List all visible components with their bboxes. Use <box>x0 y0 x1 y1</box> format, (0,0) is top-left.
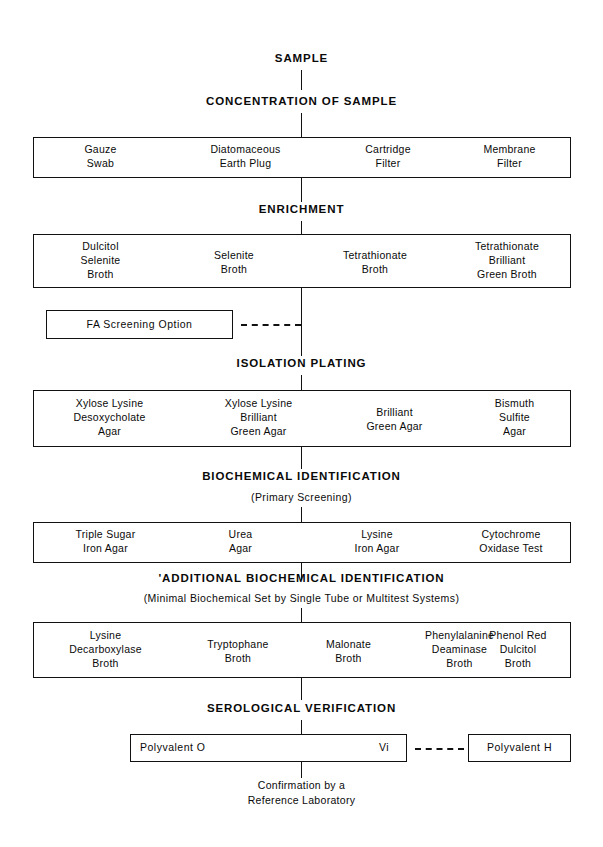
biochemical-cell-2: UreaAgar <box>178 528 303 556</box>
stage-title-concentration: CONCENTRATION OF SAMPLE <box>0 95 603 107</box>
stage-subtitle-biochemical: (Primary Screening) <box>0 491 603 503</box>
footnote-line-2: Reference Laboratory <box>0 793 603 807</box>
stage-title-enrichment: ENRICHMENT <box>0 203 603 215</box>
footnote-line-1: Confirmation by a <box>0 778 603 792</box>
stage-title-additional: 'ADDITIONAL BIOCHEMICAL IDENTIFICATION <box>0 572 603 584</box>
enrichment-cell-1: DulcitolSeleniteBroth <box>33 240 168 282</box>
connector-serological-to-box <box>301 720 302 734</box>
connector-serology-to-footnote <box>301 762 302 778</box>
enrichment-cell-4: TetrathionateBrilliantGreen Broth <box>443 240 571 282</box>
enrichment-cell-2: SeleniteBroth <box>164 249 304 277</box>
isolation-cell-3: BrilliantGreen Agar <box>323 406 466 434</box>
additional-cell-1: LysineDecarboxylaseBroth <box>33 629 178 671</box>
biochemical-cell-4: CytochromeOxidase Test <box>451 528 571 556</box>
isolation-cell-2: Xylose LysineBrilliantGreen Agar <box>186 397 331 439</box>
concentration-cell-4: MembraneFilter <box>448 143 571 171</box>
connector-biochemical-to-box <box>301 507 302 522</box>
stage-title-isolation: ISOLATION PLATING <box>0 357 603 369</box>
connector-sample-to-concentration <box>301 70 302 90</box>
vi-label: Vi <box>379 741 389 753</box>
serology-dashed-connector <box>415 748 464 750</box>
biochemical-cell-1: Triple SugarIron Agar <box>33 528 178 556</box>
connector-isolation-to-biochemical <box>301 447 302 469</box>
stage-title-sample: SAMPLE <box>0 52 603 64</box>
additional-cell-3: MalonateBroth <box>296 638 401 666</box>
concentration-cell-2: DiatomaceousEarth Plug <box>168 143 323 171</box>
polyvalent-o-label: Polyvalent O <box>140 741 206 753</box>
concentration-cell-1: GauzeSwab <box>33 143 168 171</box>
flow-diagram: SAMPLE CONCENTRATION OF SAMPLE GauzeSwab… <box>0 0 603 847</box>
connector-isolation-to-box <box>301 375 302 390</box>
fa-screening-option-label: FA Screening Option <box>46 318 233 330</box>
isolation-cell-4: BismuthSulfiteAgar <box>458 397 571 439</box>
connector-additional-to-box <box>301 608 302 622</box>
connector-enrichment-to-isolation <box>301 288 302 356</box>
additional-cell-2: TryptophaneBroth <box>178 638 298 666</box>
isolation-cell-1: Xylose LysineDesoxycholateAgar <box>33 397 186 439</box>
fa-screening-dashed-connector <box>241 324 301 326</box>
stage-title-biochemical: BIOCHEMICAL IDENTIFICATION <box>0 470 603 482</box>
connector-additional-to-serological <box>301 678 302 700</box>
additional-cell-5: Phenol RedDulcitolBroth <box>465 629 571 671</box>
connector-concentration-to-box <box>301 113 302 137</box>
biochemical-cell-3: LysineIron Agar <box>303 528 451 556</box>
stage-title-serological: SEROLOGICAL VERIFICATION <box>0 702 603 714</box>
connector-box-to-enrichment <box>301 178 302 202</box>
polyvalent-h-label: Polyvalent H <box>468 741 571 753</box>
stage-subtitle-additional: (Minimal Biochemical Set by Single Tube … <box>0 592 603 604</box>
enrichment-cell-3: TetrathionateBroth <box>300 249 450 277</box>
concentration-cell-3: CartridgeFilter <box>323 143 453 171</box>
connector-enrichment-to-box <box>301 221 302 234</box>
